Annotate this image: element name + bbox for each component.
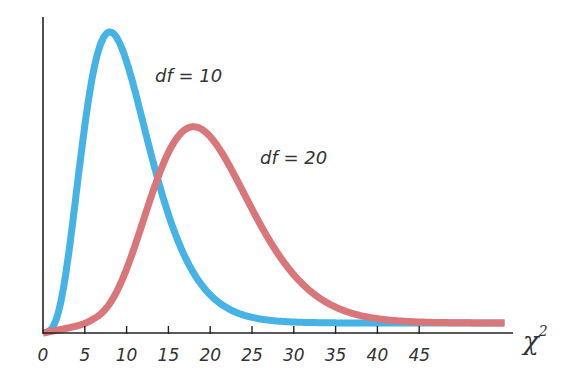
df-20-label: df = 20	[260, 147, 327, 168]
x-tick-label: 35	[325, 345, 347, 365]
x-tick-label: 20	[199, 345, 221, 365]
x-axis-title: χ2	[521, 323, 548, 356]
x-tick-label: 0	[38, 345, 49, 365]
x-tick-label: 10	[116, 345, 138, 365]
x-tick-label: 40	[367, 345, 389, 365]
x-tick-label: 5	[79, 345, 90, 365]
df-10-label: df = 10	[155, 65, 222, 86]
curve-df-10	[43, 32, 505, 333]
x-tick-label: 30	[283, 345, 305, 365]
x-axis-ticks: 051015202530354045	[38, 326, 430, 365]
x-tick-label: 45	[408, 345, 430, 365]
x-tick-label: 15	[158, 345, 180, 365]
chi-square-chart: 051015202530354045 df = 10 df = 20 χ2	[0, 0, 573, 385]
curves-group	[43, 32, 505, 333]
x-tick-label: 25	[241, 345, 263, 365]
